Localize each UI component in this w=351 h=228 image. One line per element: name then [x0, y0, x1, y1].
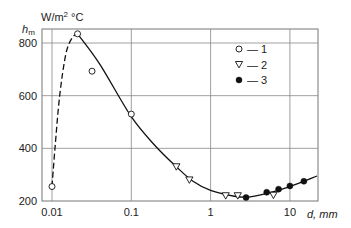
y-tick-label: 600: [19, 90, 37, 102]
x-tick-label: 0.01: [41, 206, 62, 218]
chart: 0.010.1110200400600800 hm W/m2 °C d, mm …: [0, 0, 351, 228]
series-1-point: [128, 111, 134, 117]
series-1-point: [89, 68, 95, 74]
series-1-point: [49, 184, 55, 190]
x-tick-label: 1: [208, 206, 214, 218]
series-3-point: [276, 186, 282, 192]
series-1-point: [75, 31, 81, 37]
series-3-point: [243, 195, 249, 201]
series-2-point: [222, 193, 229, 199]
plot-frame: [42, 29, 318, 201]
legend-marker-1: [236, 46, 242, 52]
x-axis-label: d, mm: [307, 208, 338, 220]
legend-marker-3: [236, 77, 242, 83]
fit-curves: [52, 34, 317, 198]
legend-marker-2: [235, 62, 242, 68]
y-tick-label: 800: [19, 37, 37, 49]
x-tick-label: 10: [284, 206, 296, 218]
legend: — 1— 2— 3: [235, 43, 267, 86]
series-3-point: [264, 189, 270, 195]
legend-label-1: — 1: [247, 43, 267, 55]
series-3-point: [287, 183, 293, 189]
gridlines: [42, 29, 318, 201]
y-axis-subscript: m: [28, 28, 35, 37]
dashed-fit-curve: [52, 34, 78, 187]
y-axis-unit: W/m2 °C: [41, 10, 84, 23]
solid-fit-curve: [78, 34, 318, 198]
y-axis-label: hm: [22, 23, 35, 37]
series-3-point: [301, 178, 307, 184]
data-points: [49, 31, 307, 201]
legend-label-2: — 2: [247, 59, 267, 71]
series-2-point: [270, 192, 277, 198]
y-tick-label: 400: [19, 142, 37, 154]
y-tick-label: 200: [19, 195, 37, 207]
legend-label-3: — 3: [247, 74, 267, 86]
x-tick-label: 0.1: [124, 206, 139, 218]
